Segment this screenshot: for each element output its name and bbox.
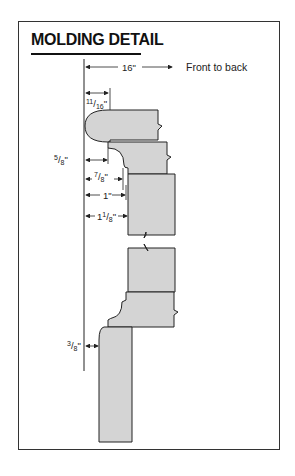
dimension-3-8: 3/8" xyxy=(67,340,98,352)
svg-text:7/8": 7/8" xyxy=(94,171,108,183)
svg-text:11/8": 11/8" xyxy=(97,211,116,223)
dimension-16in: 16" Front to back xyxy=(86,61,248,73)
lower-block xyxy=(128,244,175,292)
svg-text:16": 16" xyxy=(122,62,136,73)
svg-text:3/8": 3/8" xyxy=(67,340,81,352)
svg-text:11/16": 11/16" xyxy=(86,98,107,110)
molding-drawing: 16" Front to back 11/16" 5/8" 7/8" 1" xyxy=(0,0,295,476)
dimension-11-16: 11/16" xyxy=(86,88,110,110)
dimension-1-1-8: 11/8" xyxy=(86,211,127,223)
svg-text:Front to back: Front to back xyxy=(186,61,248,73)
base-cap-piece xyxy=(108,292,178,327)
dimension-1in: 1" xyxy=(86,185,126,201)
dimension-7-8: 7/8" xyxy=(86,168,123,190)
cove-piece xyxy=(108,142,171,174)
upper-block xyxy=(128,174,175,238)
baseboard-piece xyxy=(99,327,132,442)
dimension-5-8: 5/8" xyxy=(54,148,108,166)
svg-text:5/8": 5/8" xyxy=(54,154,68,166)
crown-top-piece xyxy=(85,110,162,142)
svg-text:1": 1" xyxy=(103,190,112,201)
